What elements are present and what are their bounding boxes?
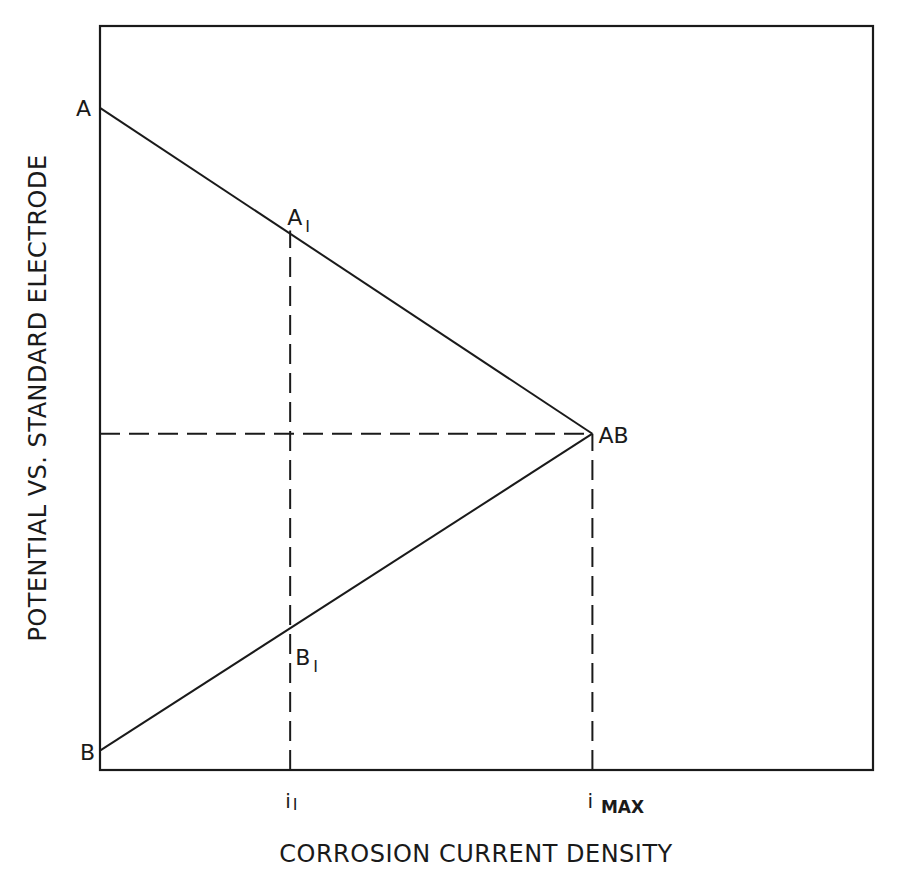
tick-label-i1: iI — [285, 789, 297, 814]
guide-lines — [100, 231, 592, 770]
x-tick-labels: iIiMAX — [285, 789, 644, 817]
plot-frame — [100, 26, 873, 770]
point-label-b: B — [80, 740, 95, 765]
point-label-b1: BI — [295, 645, 318, 676]
x-axis-title: CORROSION CURRENT DENSITY — [279, 840, 673, 868]
point-labels: AAIABBIB — [76, 96, 629, 765]
y-axis-title: POTENTIAL VS. STANDARD ELECTRODE — [24, 154, 52, 641]
series-lines — [100, 108, 592, 751]
tick-label-imax: iMAX — [587, 789, 644, 817]
line-a — [100, 108, 592, 434]
polarization-diagram: AAIABBIB iIiMAX CORROSION CURRENT DENSIT… — [0, 0, 898, 870]
point-label-ab: AB — [598, 423, 628, 448]
line-b — [100, 434, 592, 751]
point-label-a: A — [76, 96, 91, 121]
